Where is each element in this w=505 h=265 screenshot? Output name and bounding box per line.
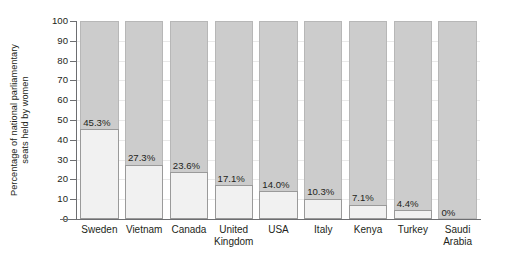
y-tick-label: 90 xyxy=(42,36,68,46)
bar-value-label: 4.4% xyxy=(397,199,419,209)
x-axis-line xyxy=(60,219,481,220)
bar-value-segment xyxy=(349,205,387,219)
category-label-line: USA xyxy=(256,224,301,236)
bar-group[interactable]: 7.1% xyxy=(349,21,387,219)
bar-group[interactable]: 17.1% xyxy=(215,21,253,219)
bar-remainder-segment xyxy=(394,21,432,219)
y-axis-title-line-1: Percentage of national parliamentary xyxy=(9,44,20,196)
bar-group[interactable]: 45.3% xyxy=(80,21,118,219)
bar-value-segment xyxy=(215,185,253,219)
y-axis-title-line-2: seats held by women xyxy=(20,44,31,196)
category-label-line: Kenya xyxy=(346,224,391,236)
category-label: Italy xyxy=(301,224,346,236)
bar-value-label: 10.3% xyxy=(307,187,334,197)
bar-value-label: 27.3% xyxy=(128,153,155,163)
bar-value-label: 7.1% xyxy=(352,193,374,203)
bar-group[interactable]: 23.6% xyxy=(170,21,208,219)
category-label-line: Saudi xyxy=(435,224,480,236)
y-tick-label: 20 xyxy=(42,174,68,184)
bar-value-segment xyxy=(170,172,208,219)
bar-group[interactable]: 4.4% xyxy=(394,21,432,219)
category-label-line: Italy xyxy=(301,224,346,236)
category-label: Vietnam xyxy=(122,224,167,236)
y-tick-label: 70 xyxy=(42,75,68,85)
y-tick-label: 100 xyxy=(42,16,68,26)
bar-group[interactable]: 14.0% xyxy=(259,21,297,219)
bar-value-label: 14.0% xyxy=(262,180,289,190)
category-label: Sweden xyxy=(77,224,122,236)
plot-area: 45.3%27.3%23.6%17.1%14.0%10.3%7.1%4.4%0% xyxy=(77,21,480,219)
bar-value-segment xyxy=(259,191,297,219)
y-tick-label: 80 xyxy=(42,56,68,66)
category-label: Turkey xyxy=(390,224,435,236)
bar-value-label: 0% xyxy=(441,208,455,218)
bar-value-label: 23.6% xyxy=(173,161,200,171)
y-axis-title: Percentage of national parliamentary sea… xyxy=(0,0,40,240)
bar-group[interactable]: 27.3% xyxy=(125,21,163,219)
category-label-line: Arabia xyxy=(435,236,480,248)
bar-value-label: 17.1% xyxy=(218,174,245,184)
y-tick-label: 60 xyxy=(42,95,68,105)
y-tick-label: 10 xyxy=(42,194,68,204)
category-label: Canada xyxy=(167,224,212,236)
y-tick-label: 40 xyxy=(42,135,68,145)
category-label-line: United xyxy=(211,224,256,236)
category-label: Kenya xyxy=(346,224,391,236)
bar-value-segment xyxy=(125,165,163,219)
chart-figure: Percentage of national parliamentary sea… xyxy=(0,0,505,265)
y-tick-label: 30 xyxy=(42,155,68,165)
category-label: SaudiArabia xyxy=(435,224,480,248)
y-tick-label: 50 xyxy=(42,115,68,125)
bar-value-segment xyxy=(394,210,432,219)
category-label-line: Sweden xyxy=(77,224,122,236)
category-label-line: Kingdom xyxy=(211,236,256,248)
bar-value-segment xyxy=(80,129,118,219)
bar-value-label: 45.3% xyxy=(83,118,110,128)
bar-value-segment xyxy=(304,199,342,219)
bar-remainder-segment xyxy=(438,21,476,219)
bar-group[interactable]: 0% xyxy=(438,21,476,219)
category-label: UnitedKingdom xyxy=(211,224,256,248)
category-label: USA xyxy=(256,224,301,236)
bar-group[interactable]: 10.3% xyxy=(304,21,342,219)
category-label-line: Turkey xyxy=(390,224,435,236)
category-label-line: Canada xyxy=(167,224,212,236)
category-label-line: Vietnam xyxy=(122,224,167,236)
bar-remainder-segment xyxy=(349,21,387,219)
